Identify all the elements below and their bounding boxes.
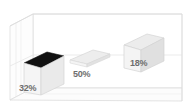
bar-chart-3d: 32% 50% 18% (0, 0, 184, 106)
bar3-value-label: 18% (130, 59, 147, 68)
bar2-value-label: 50% (73, 70, 90, 79)
bar1-value-label: 32% (19, 84, 36, 93)
